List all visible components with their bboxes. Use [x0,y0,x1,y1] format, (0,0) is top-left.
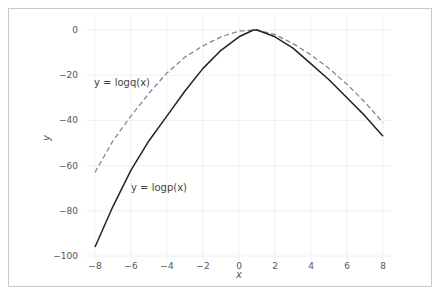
x-tick-label: 6 [344,261,350,271]
x-tick-label: −8 [88,261,102,271]
x-tick-label: −2 [196,261,209,271]
y-tick-label: −20 [59,70,78,80]
y-tick-label: −100 [53,251,78,261]
y-tick-label: −80 [59,206,78,216]
x-tick-label: 2 [272,261,278,271]
x-tick-label: −4 [160,261,174,271]
y-tick-label: −60 [59,161,78,171]
x-tick-label: 4 [308,261,314,271]
y-axis-label: y [41,134,52,142]
x-tick-label: −6 [124,261,138,271]
x-tick-label: 8 [380,261,386,271]
x-axis-label: x [235,269,242,280]
annotation-logp: y = logp(x) [131,182,187,193]
y-tick-label: −40 [59,115,78,125]
y-tick-label: 0 [72,25,78,35]
y-axis-ticks: 0−20−40−60−80−100 [53,25,78,261]
line-chart: 0−20−40−60−80−100 −8−6−4−202468 x y y = … [0,0,438,295]
grid-lines [86,16,392,260]
annotation-logq: y = logq(x) [94,77,150,88]
